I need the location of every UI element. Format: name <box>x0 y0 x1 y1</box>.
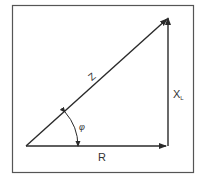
phase-angle-arc <box>65 112 78 146</box>
label-z: Z <box>86 70 98 82</box>
label-xl: XL <box>173 88 184 101</box>
diagram-border <box>13 6 194 173</box>
label-phi: φ <box>79 122 85 132</box>
impedance-triangle-diagram: Z XL R φ <box>0 0 205 184</box>
impedance-vector-z <box>26 19 167 146</box>
label-r: R <box>98 151 106 163</box>
